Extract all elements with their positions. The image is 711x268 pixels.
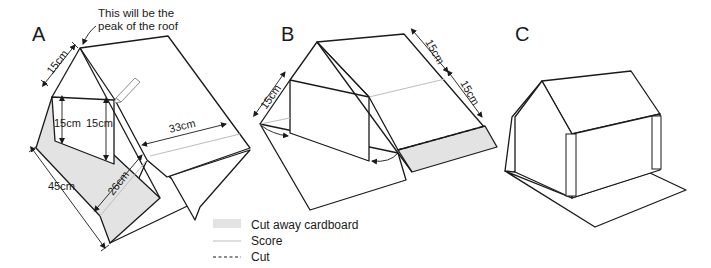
peak-note-line2: peak of the roof [98, 20, 179, 32]
panel-a: A This will be the peak of the roof 15cm… [29, 7, 250, 251]
dim-right-height-text: 15cm [86, 117, 113, 129]
panel-b: B 15cm 15cm 15cm [256, 23, 497, 210]
panel-c-label: C [515, 23, 529, 45]
dim-length-45-text: 45cm [48, 180, 75, 192]
corner-tab-left [566, 134, 576, 196]
dim-left-height-text: 15cm [54, 117, 81, 129]
legend-swatch-cutaway [213, 219, 241, 228]
panel-a-label: A [32, 23, 46, 45]
legend-label-cut: Cut [251, 250, 270, 264]
peak-pointer-arrow [83, 26, 96, 44]
peak-note-line1: This will be the [98, 7, 174, 19]
legend-label-score: Score [251, 234, 283, 248]
panel-c: C [505, 23, 686, 227]
corner-tab-right [652, 116, 661, 169]
panel-b-label: B [281, 23, 294, 45]
legend-label-cutaway: Cut away cardboard [251, 218, 358, 232]
cardboard-house-diagram: A This will be the peak of the roof 15cm… [0, 0, 711, 268]
legend: Cut away cardboard Score Cut [213, 218, 358, 264]
